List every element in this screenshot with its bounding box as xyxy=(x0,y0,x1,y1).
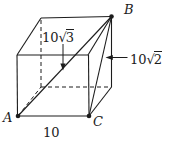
vertex-dot-b xyxy=(109,14,114,19)
edge-top-right-oblique xyxy=(88,17,112,56)
vertex-label-a: A xyxy=(3,111,12,124)
cube-geometry xyxy=(0,0,172,141)
radicand: 2 xyxy=(154,51,162,66)
radical-sign: √ xyxy=(59,30,66,45)
vertex-label-b: B xyxy=(124,3,134,16)
edge-ac-measurement: 10 xyxy=(43,126,60,139)
edge-top-left-oblique xyxy=(17,18,41,55)
radical-sign: √ xyxy=(147,52,154,67)
edge-front-right-vertical xyxy=(89,55,90,116)
coefficient: 10 xyxy=(130,52,147,67)
edge-top-back xyxy=(41,17,112,19)
space-diagonal-measurement: 10√3 xyxy=(42,29,74,44)
edge-front-left-vertical xyxy=(17,55,18,116)
face-diagonal-measurement: 10√2 xyxy=(130,51,162,66)
vertex-dot-c xyxy=(87,114,92,119)
cube-diagram: A B C 10 10√3 10√2 xyxy=(0,0,172,141)
coefficient: 10 xyxy=(42,30,59,45)
radicand: 3 xyxy=(66,29,74,44)
left-arrowhead-icon xyxy=(106,55,113,60)
vertex-label-c: C xyxy=(93,115,103,128)
face-diagonal-arrow xyxy=(106,55,128,60)
vertex-dot-a xyxy=(16,114,21,119)
